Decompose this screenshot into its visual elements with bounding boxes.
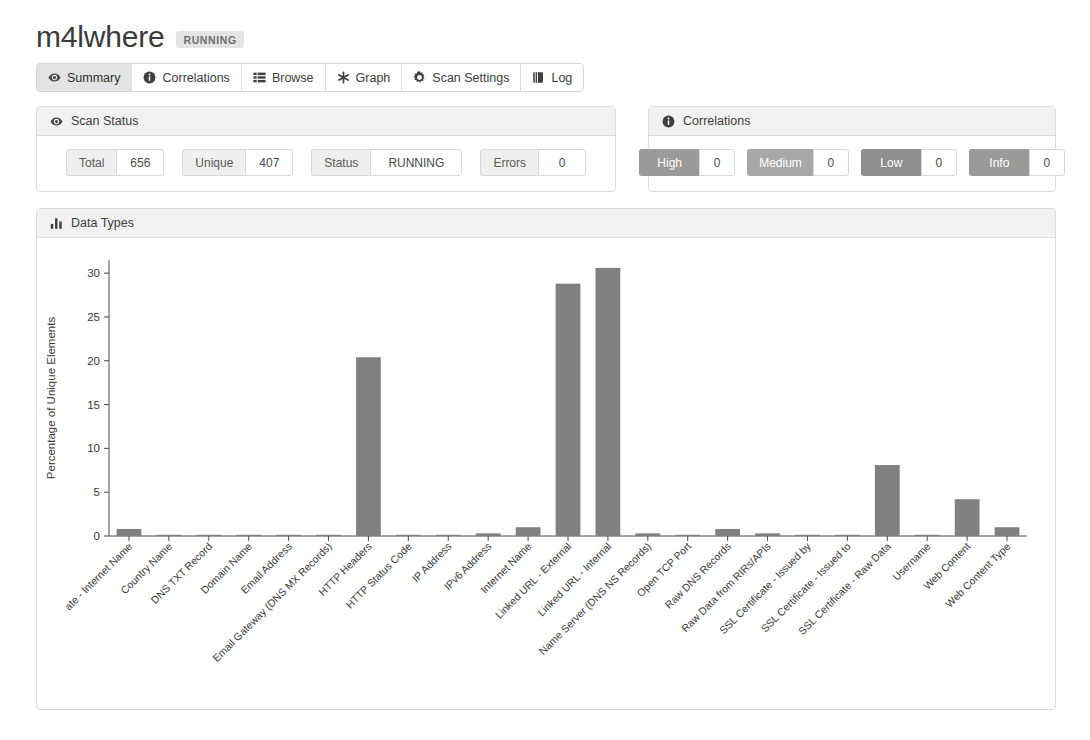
data-types-body: 051015202530Percentage of Unique Element… xyxy=(37,238,1055,708)
bar-chart-icon xyxy=(50,217,63,230)
scan-summary-page: m4lwhere RUNNING Summary Correlations Br… xyxy=(0,0,1090,740)
svg-text:15: 15 xyxy=(87,399,100,411)
tab-graph-label: Graph xyxy=(356,71,391,85)
tab-correlations-label: Correlations xyxy=(162,71,229,85)
correlations-header: Correlations xyxy=(649,107,1055,136)
correlation-medium[interactable]: Medium 0 xyxy=(747,149,849,176)
bar-ssl-certificate-raw-data xyxy=(875,465,900,536)
bar-open-tcp-port xyxy=(675,535,700,536)
scan-stat-row: Total 656 Unique 407 Status RUNNING Erro… xyxy=(49,149,603,176)
stat-status: Status RUNNING xyxy=(311,149,462,176)
svg-text:10: 10 xyxy=(87,442,100,454)
tab-bar: Summary Correlations Browse Graph Scan S xyxy=(36,63,584,92)
scan-status-panel: Scan Status Total 656 Unique 407 Status … xyxy=(36,106,616,192)
bar-web-content-type xyxy=(995,527,1020,536)
svg-text:30: 30 xyxy=(87,267,100,279)
correlations-body: High 0 Medium 0 Low 0 Info 0 xyxy=(649,136,1055,189)
stat-status-label: Status xyxy=(311,149,370,176)
bar-http-headers xyxy=(356,357,381,536)
correlation-info-value: 0 xyxy=(1029,149,1065,176)
bar-http-status-code xyxy=(396,535,421,536)
bar-country-name xyxy=(157,535,182,536)
bar-email-gateway-dns-mx-records xyxy=(316,535,341,536)
bar-ate-internet-name xyxy=(117,529,142,536)
bar-internet-name xyxy=(516,527,541,536)
tab-summary[interactable]: Summary xyxy=(37,64,132,91)
tab-scan-settings-label: Scan Settings xyxy=(432,71,509,85)
page-title: m4lwhere xyxy=(36,22,164,52)
bar-raw-data-from-rirs-apis xyxy=(755,533,780,536)
bar-web-content xyxy=(955,499,980,536)
tab-log-label: Log xyxy=(551,71,572,85)
list-icon xyxy=(253,71,266,84)
x-axis-label: Linked URL - Internal xyxy=(535,540,613,618)
x-axis-label: Username xyxy=(890,540,933,583)
stat-errors: Errors 0 xyxy=(480,149,586,176)
stat-unique: Unique 407 xyxy=(182,149,293,176)
tab-log[interactable]: Log xyxy=(521,64,583,91)
stat-errors-label: Errors xyxy=(480,149,538,176)
status-badge: RUNNING xyxy=(176,31,243,48)
svg-text:0: 0 xyxy=(94,530,100,542)
svg-text:20: 20 xyxy=(87,355,100,367)
bar-ssl-certificate-issued-to xyxy=(835,535,860,536)
data-types-panel: Data Types 051015202530Percentage of Uni… xyxy=(36,208,1056,710)
tab-correlations[interactable]: Correlations xyxy=(132,64,241,91)
correlation-low-value: 0 xyxy=(921,149,957,176)
bar-dns-txt-record xyxy=(196,535,221,536)
tab-browse-label: Browse xyxy=(272,71,314,85)
tab-graph[interactable]: Graph xyxy=(326,64,403,91)
svg-text:25: 25 xyxy=(87,311,100,323)
bar-linked-url-internal xyxy=(596,268,621,536)
scan-status-header: Scan Status xyxy=(37,107,615,136)
correlation-low[interactable]: Low 0 xyxy=(861,149,957,176)
gear-icon xyxy=(413,71,426,84)
tab-browse[interactable]: Browse xyxy=(242,64,326,91)
info-icon xyxy=(662,115,675,128)
bar-email-address xyxy=(276,535,301,536)
stat-total-value: 656 xyxy=(116,149,164,176)
x-axis-label: Linked URL - External xyxy=(493,540,574,621)
correlation-info-label: Info xyxy=(969,149,1029,176)
bar-ipv6-address xyxy=(476,533,501,536)
bar-username xyxy=(915,535,940,536)
bar-raw-dns-records xyxy=(715,529,740,536)
data-types-header: Data Types xyxy=(37,209,1055,238)
bar-domain-name xyxy=(236,535,261,536)
stat-unique-value: 407 xyxy=(245,149,293,176)
bar-chart-svg: 051015202530Percentage of Unique Element… xyxy=(37,238,1055,708)
page-header: m4lwhere RUNNING xyxy=(36,22,244,52)
correlations-title: Correlations xyxy=(683,114,750,128)
correlation-low-label: Low xyxy=(861,149,921,176)
data-types-title: Data Types xyxy=(71,216,134,230)
correlation-severity-row: High 0 Medium 0 Low 0 Info 0 xyxy=(661,149,1043,176)
correlation-medium-label: Medium xyxy=(747,149,813,176)
eye-icon xyxy=(48,71,61,84)
scan-status-body: Total 656 Unique 407 Status RUNNING Erro… xyxy=(37,136,615,189)
stat-errors-value: 0 xyxy=(538,149,586,176)
asterisk-icon xyxy=(337,71,350,84)
eye-icon xyxy=(50,115,63,128)
correlation-info[interactable]: Info 0 xyxy=(969,149,1065,176)
stat-total-label: Total xyxy=(66,149,116,176)
correlation-high-label: High xyxy=(639,149,699,176)
correlation-high[interactable]: High 0 xyxy=(639,149,735,176)
stat-unique-label: Unique xyxy=(182,149,245,176)
x-axis-label: ate - Internet Name xyxy=(62,540,135,613)
scan-status-title: Scan Status xyxy=(71,114,138,128)
bar-linked-url-external xyxy=(556,284,581,536)
svg-text:5: 5 xyxy=(94,486,100,498)
correlations-panel: Correlations High 0 Medium 0 Low 0 Info xyxy=(648,106,1056,192)
correlation-medium-value: 0 xyxy=(813,149,849,176)
book-icon xyxy=(532,71,545,84)
stat-status-value: RUNNING xyxy=(370,149,462,176)
tab-summary-label: Summary xyxy=(67,71,120,85)
bar-ip-address xyxy=(436,535,461,536)
bar-ssl-certificate-issued-by xyxy=(795,535,820,536)
svg-text:Percentage of Unique Elements: Percentage of Unique Elements xyxy=(45,317,57,480)
stat-total: Total 656 xyxy=(66,149,164,176)
bar-name-server-dns-ns-records xyxy=(635,533,660,536)
tab-scan-settings[interactable]: Scan Settings xyxy=(402,64,521,91)
correlation-high-value: 0 xyxy=(699,149,735,176)
info-icon xyxy=(143,71,156,84)
